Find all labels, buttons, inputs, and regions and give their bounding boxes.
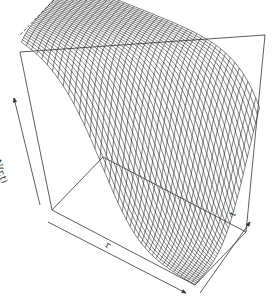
z-axis-arrow-head — [13, 98, 16, 102]
plot-box-back — [20, 0, 71, 35]
mesh-line — [100, 10, 144, 160]
box-edge-hidden — [20, 0, 71, 35]
t-axis-arrow — [200, 222, 250, 293]
r-axis-arrow-head — [182, 290, 186, 293]
mesh-line — [32, 25, 207, 271]
mesh-line — [39, 16, 215, 259]
box-edge — [52, 157, 103, 210]
mesh-line — [43, 12, 219, 252]
box-edge — [246, 35, 265, 232]
surface-mesh — [21, 0, 259, 285]
z-axis-arrow — [14, 98, 40, 205]
surface-plot — [0, 0, 277, 297]
box-edge — [20, 52, 52, 210]
mesh-line — [184, 81, 247, 278]
box-edge — [52, 210, 195, 285]
r-axis-arrow — [48, 222, 186, 293]
